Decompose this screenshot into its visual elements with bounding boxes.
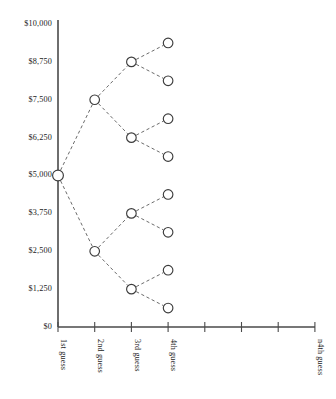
x-axis-tick-labels: 1st guess2nd guess3rd guess4th guessn4th… [59, 339, 325, 375]
tree-branch [98, 217, 127, 247]
x-tick-label: 3rd guess [133, 339, 142, 372]
x-tick-label: 4th guess [169, 339, 178, 371]
tree-node [127, 209, 137, 219]
tree-branch [136, 45, 163, 59]
y-tick-label: $8,750 [29, 57, 52, 66]
x-tick-label: 1st guess [59, 339, 68, 370]
tree-node [127, 57, 137, 67]
tree-node [163, 152, 173, 162]
tree-node [163, 76, 173, 86]
tree-node [127, 284, 137, 294]
tree-node [127, 133, 137, 143]
tree-node [163, 303, 173, 313]
binomial-tree-chart: $10,000$8,750$7,500$6,250$5,000$3,750$2,… [0, 0, 336, 399]
y-axis-tick-labels: $10,000$8,750$7,500$6,250$5,000$3,750$2,… [24, 19, 52, 331]
tree-branch [98, 66, 127, 96]
tree-nodes [53, 38, 173, 313]
tree-node [163, 265, 173, 275]
tree-branch [136, 121, 163, 135]
tree-branch [136, 197, 163, 211]
tree-branch [98, 255, 127, 285]
tree-branch [136, 140, 163, 154]
tree-branches [61, 45, 164, 305]
y-tick-label: $7,500 [29, 95, 52, 104]
tree-branch [136, 273, 163, 287]
y-tick-label: $0 [44, 322, 53, 331]
chart-figure: $10,000$8,750$7,500$6,250$5,000$3,750$2,… [0, 0, 336, 399]
y-tick-label: $2,500 [29, 246, 52, 255]
tree-node [163, 114, 173, 124]
tree-node [90, 95, 100, 105]
tree-node [163, 228, 173, 238]
tree-node [90, 246, 100, 256]
tree-node [163, 38, 173, 48]
tree-branch [61, 105, 93, 170]
tree-branch [136, 216, 163, 230]
y-tick-label: $10,000 [24, 19, 52, 28]
tree-node [163, 190, 173, 200]
tree-node [53, 170, 64, 181]
tree-branch [98, 104, 127, 134]
y-tick-label: $6,250 [29, 133, 52, 142]
tree-branch [136, 64, 163, 78]
tree-branch [136, 292, 163, 306]
y-tick-label: $5,000 [29, 170, 52, 179]
x-tick-label: n4th guess [316, 339, 325, 375]
x-tick-label: 2nd guess [96, 339, 105, 373]
y-tick-label: $1,250 [29, 284, 52, 293]
tree-branch [61, 181, 93, 246]
y-tick-label: $3,750 [29, 208, 52, 217]
